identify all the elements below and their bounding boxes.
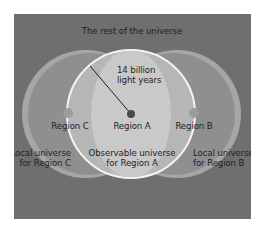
- title-rest-of-universe: The rest of the universe: [82, 26, 182, 36]
- universe-diagram: [14, 14, 251, 219]
- region-b-dot: [189, 108, 199, 118]
- region-a-label: Region A: [113, 121, 150, 131]
- region-b-label: Region B: [175, 121, 212, 131]
- region-c-caption-line2: for Region C: [14, 158, 71, 168]
- region-a-caption-line2: for Region A: [106, 158, 157, 168]
- region-c-label: Region C: [51, 121, 88, 131]
- region-c-caption-line1: Local universe: [14, 148, 71, 158]
- region-a-dot: [127, 110, 135, 118]
- region-a-caption-line1: Observable universe: [89, 148, 176, 158]
- radius-label-line2: light years: [117, 75, 161, 85]
- radius-label-line1: 14 billion: [117, 65, 155, 75]
- region-c-dot: [63, 108, 73, 118]
- region-b-caption-line2: for Region B: [193, 158, 244, 168]
- region-b-caption-line1: Local universe: [193, 148, 251, 158]
- diagram-frame: The rest of the universe 14 billion ligh…: [14, 14, 251, 219]
